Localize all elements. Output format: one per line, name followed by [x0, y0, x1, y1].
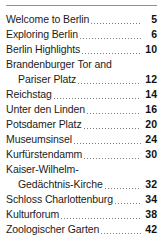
toc-entry-line: Reichstag 14: [6, 87, 157, 102]
dot-leader: [54, 98, 141, 99]
dot-leader: [78, 83, 141, 84]
toc-entry-title-continued: Gedächtnis-Kirche: [6, 177, 105, 192]
dot-leader: [82, 53, 141, 54]
toc-entry-title: Berlin Highlights: [6, 42, 82, 57]
toc-entry-line: Museumsinsel 24: [6, 132, 157, 147]
toc-entry[interactable]: Kurfürstendamm 30: [6, 147, 157, 162]
toc-entry-line: Exploring Berlin 6: [6, 27, 157, 42]
dot-leader: [87, 113, 141, 114]
toc-entry[interactable]: Unter den Linden 16: [6, 102, 157, 117]
dot-leader: [61, 218, 141, 219]
dot-leader: [105, 188, 141, 189]
toc-entry-line: Brandenburger Tor and: [6, 57, 157, 72]
toc-page-number: 16: [141, 102, 157, 117]
toc-entry[interactable]: Welcome to Berlin 5: [6, 12, 157, 27]
toc-page-number: 10: [141, 42, 157, 57]
toc-entry[interactable]: Berlin Highlights 10: [6, 42, 157, 57]
toc-page-number: 12: [141, 72, 157, 87]
dot-leader: [84, 128, 141, 129]
dot-leader: [81, 173, 141, 174]
table-of-contents: Welcome to Berlin 5 Exploring Berlin 6 B…: [0, 5, 167, 245]
toc-entry-line-continued: Gedächtnis-Kirche 32: [6, 177, 157, 192]
toc-entry[interactable]: Schloss Charlottenburg 34: [6, 192, 157, 207]
toc-entry-line: Welcome to Berlin 5: [6, 12, 157, 27]
toc-page-number: 32: [141, 177, 157, 192]
toc-entry-title: Kulturforum: [6, 207, 61, 222]
toc-entry-title: Unter den Linden: [6, 102, 87, 117]
toc-entry[interactable]: Zoologischer Garten 42: [6, 222, 157, 237]
toc-entry-list: Welcome to Berlin 5 Exploring Berlin 6 B…: [6, 6, 157, 237]
toc-page-number: 38: [141, 207, 157, 222]
dot-leader: [74, 143, 141, 144]
toc-entry-title: Kaiser-Wilhelm-: [6, 162, 81, 177]
toc-entry[interactable]: Museumsinsel 24: [6, 132, 157, 147]
dot-leader: [114, 68, 141, 69]
toc-page-number: 30: [141, 147, 157, 162]
toc-entry-title: Brandenburger Tor and: [6, 57, 114, 72]
toc-entry-title: Kurfürstendamm: [6, 147, 84, 162]
toc-entry-line: Berlin Highlights 10: [6, 42, 157, 57]
dot-leader: [91, 23, 141, 24]
toc-entry-line: Zoologischer Garten 42: [6, 222, 157, 237]
toc-entry-title: Exploring Berlin: [6, 27, 80, 42]
toc-entry[interactable]: Brandenburger Tor and Pariser Platz 12: [6, 57, 157, 87]
toc-entry[interactable]: Exploring Berlin 6: [6, 27, 157, 42]
toc-entry-line: Kurfürstendamm 30: [6, 147, 157, 162]
toc-page-number: 6: [141, 27, 157, 42]
toc-entry-title: Zoologischer Garten: [6, 222, 101, 237]
toc-page-number: 42: [141, 222, 157, 237]
toc-entry-line-continued: Pariser Platz 12: [6, 72, 157, 87]
toc-entry-title: Potsdamer Platz: [6, 117, 84, 132]
toc-entry-line: Schloss Charlottenburg 34: [6, 192, 157, 207]
dot-leader: [101, 233, 141, 234]
toc-entry-title: Museumsinsel: [6, 132, 74, 147]
toc-entry-title: Reichstag: [6, 87, 54, 102]
toc-entry[interactable]: Kaiser-Wilhelm- Gedächtnis-Kirche 32: [6, 162, 157, 192]
toc-page-number: 20: [141, 117, 157, 132]
toc-entry-line: Potsdamer Platz 20: [6, 117, 157, 132]
toc-page-number: 14: [141, 87, 157, 102]
dot-leader: [84, 158, 141, 159]
toc-entry-line: Kaiser-Wilhelm-: [6, 162, 157, 177]
toc-entry[interactable]: Kulturforum 38: [6, 207, 157, 222]
dot-leader: [115, 203, 141, 204]
toc-entry[interactable]: Reichstag 14: [6, 87, 157, 102]
toc-page-number: 24: [141, 132, 157, 147]
toc-entry[interactable]: Potsdamer Platz 20: [6, 117, 157, 132]
toc-page-number: 34: [141, 192, 157, 207]
toc-entry-line: Kulturforum 38: [6, 207, 157, 222]
toc-entry-title-continued: Pariser Platz: [6, 72, 78, 87]
toc-entry-title: Welcome to Berlin: [6, 12, 91, 27]
dot-leader: [80, 38, 141, 39]
toc-entry-line: Unter den Linden 16: [6, 102, 157, 117]
toc-entry-title: Schloss Charlottenburg: [6, 192, 115, 207]
toc-page-number: 5: [141, 12, 157, 27]
